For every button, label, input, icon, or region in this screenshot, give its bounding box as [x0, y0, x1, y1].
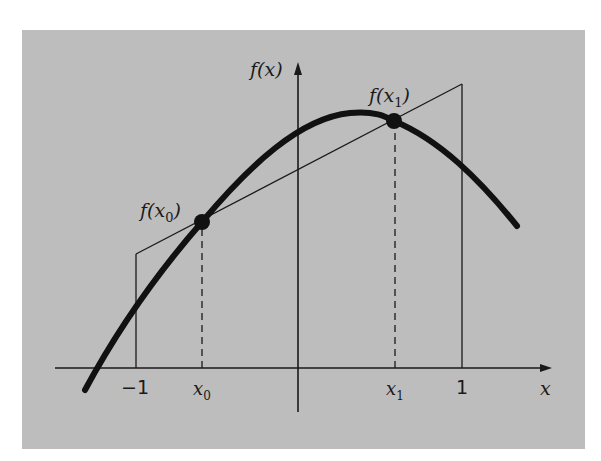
- y-axis-arrow-icon: [294, 62, 302, 75]
- label-f-x1: f(x1): [367, 84, 410, 110]
- y-axis-label: f(x): [248, 58, 283, 80]
- x-axis-label: x: [540, 377, 551, 399]
- label-f-x0: f(x0): [138, 199, 181, 225]
- tick-x1: x1: [386, 378, 404, 403]
- point-f-x0: [194, 214, 210, 230]
- x-axis-arrow-icon: [540, 364, 552, 372]
- point-f-x1: [386, 113, 402, 129]
- function-curve: [85, 113, 517, 390]
- trapezoid: [136, 84, 462, 368]
- tick-one: 1: [456, 376, 468, 398]
- tick-minus-one: −1: [121, 376, 149, 398]
- tick-x0: x0: [193, 378, 211, 403]
- gauss-quadrature-diagram: f(x) x f(x0) f(x1) −1 x0 x1 1: [0, 0, 601, 461]
- secant-line: [136, 84, 462, 254]
- x-axis: [55, 364, 552, 372]
- y-axis: [294, 62, 302, 412]
